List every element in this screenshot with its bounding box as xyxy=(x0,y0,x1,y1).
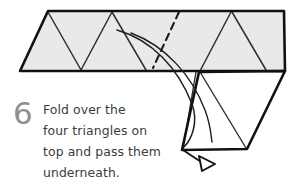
instruction-caption: Fold over the four triangles on top and … xyxy=(43,99,193,183)
step-number: 6 xyxy=(13,98,33,129)
tuck-arrowhead-icon xyxy=(199,156,215,171)
shaded-paper-band xyxy=(20,11,285,71)
origami-diagram-page: 6 Fold over the four triangles on top an… xyxy=(0,0,294,184)
